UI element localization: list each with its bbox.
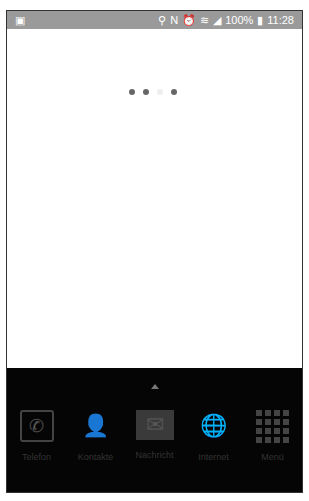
app-label: Nachricht xyxy=(135,450,173,460)
expand-arrow-icon[interactable] xyxy=(151,384,159,389)
screenshot-icon: ▣ xyxy=(15,14,25,27)
nfc-icon: N xyxy=(170,14,178,26)
status-bar: ▣ ⚲ N ⏰ ≋ ◢ 100% ▮ 11:28 xyxy=(7,11,302,29)
alarm-icon: ⏰ xyxy=(182,14,196,27)
battery-level: 100% xyxy=(225,14,253,26)
phone-screen: ▣ ⚲ N ⏰ ≋ ◢ 100% ▮ 11:28 ✆ Telefon 👤 Kon… xyxy=(6,10,303,493)
app-internet[interactable]: 🌐 Internet xyxy=(185,410,243,462)
loading-dot xyxy=(143,89,149,95)
apps-grid-icon xyxy=(255,410,291,442)
loading-dot xyxy=(129,89,135,95)
loading-dot xyxy=(157,89,163,95)
app-label: Internet xyxy=(198,452,229,462)
message-icon: ✉ xyxy=(136,410,174,440)
location-icon: ⚲ xyxy=(158,14,166,27)
loading-indicator xyxy=(129,89,177,95)
app-nachricht[interactable]: ✉ Nachricht xyxy=(126,410,184,462)
battery-icon: ▮ xyxy=(257,14,263,27)
app-kontakte[interactable]: 👤 Kontakte xyxy=(67,410,125,462)
app-label: Telefon xyxy=(22,452,51,462)
signal-icon: ◢ xyxy=(213,14,221,27)
loading-dot xyxy=(171,89,177,95)
app-telefon[interactable]: ✆ Telefon xyxy=(8,410,66,462)
globe-icon: 🌐 xyxy=(196,410,232,442)
wifi-icon: ≋ xyxy=(200,14,209,27)
contacts-icon: 👤 xyxy=(78,410,114,442)
clock: 11:28 xyxy=(267,14,294,26)
phone-icon: ✆ xyxy=(20,410,54,442)
app-label: Menü xyxy=(261,452,284,462)
app-dock: ✆ Telefon 👤 Kontakte ✉ Nachricht 🌐 Inter… xyxy=(7,368,302,492)
app-menu[interactable]: Menü xyxy=(244,410,302,462)
app-label: Kontakte xyxy=(78,452,114,462)
